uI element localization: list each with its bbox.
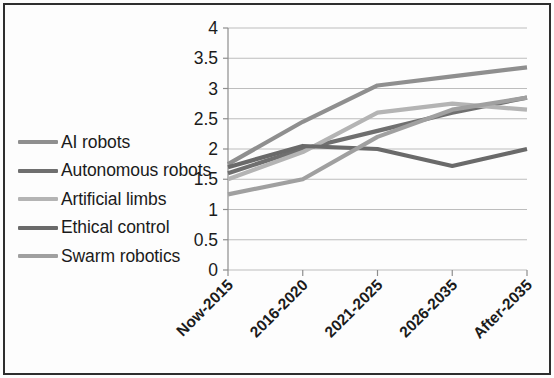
x-tick-labels: Now-20152016-20202021-20252026-2035After… [173, 276, 535, 342]
y-tick-label: 0.5 [194, 230, 218, 250]
series-line-artificial-limbs [228, 104, 527, 180]
x-tick-label: 2026-2035 [396, 276, 461, 341]
y-tick-label: 2.5 [194, 109, 218, 129]
y-tick-label: 2 [208, 139, 218, 159]
y-tick-label: 0 [208, 260, 218, 280]
y-tick-label: 3 [208, 79, 218, 99]
x-tick-label: After-2035 [469, 276, 535, 342]
line-chart: AI robots Autonomous robots Artificial l… [0, 0, 554, 378]
x-tick-label: 2016-2020 [246, 276, 310, 340]
x-axis-ticks [228, 270, 527, 276]
y-tick-label: 3.5 [194, 48, 218, 68]
data-series-group [228, 67, 527, 194]
y-axis [223, 28, 228, 270]
x-tick-label: Now-2015 [173, 276, 236, 339]
x-tick-label: 2021-2025 [321, 276, 386, 341]
y-tick-label: 1 [208, 200, 218, 220]
y-tick-label: 4 [208, 18, 218, 38]
y-tick-label: 1.5 [194, 169, 218, 189]
plot-area: 00.511.522.533.54 Now-20152016-20202021-… [0, 0, 554, 378]
y-tick-labels: 00.511.522.533.54 [194, 18, 219, 280]
